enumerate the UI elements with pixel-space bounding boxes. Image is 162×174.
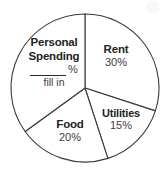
pie-slices	[11, 14, 159, 162]
pie-chart: Personal Spending % fill in Rent 30% Uti…	[0, 0, 162, 174]
pie-chart-svg	[0, 0, 162, 174]
corner-artifact	[146, 1, 159, 14]
